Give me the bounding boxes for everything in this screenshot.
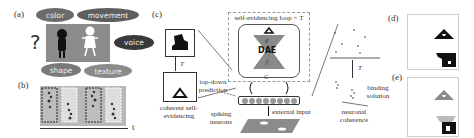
spiking-neurons-label: spiking neurons (208, 110, 234, 126)
input-plane-icon (240, 117, 304, 135)
down-arrow-right (352, 60, 353, 78)
neuron (277, 98, 283, 104)
panel-d-label: (d) (388, 13, 399, 23)
panel-d-box (407, 14, 459, 70)
external-input-label: external input (272, 108, 311, 116)
scattered-points (330, 20, 380, 60)
loop-arrows-icon (238, 80, 300, 96)
neuron (284, 98, 290, 104)
T-label-right: T (358, 64, 362, 72)
neuron (263, 98, 269, 104)
panel-e-label: (e) (392, 72, 402, 82)
neuron (270, 98, 276, 104)
neuron (242, 98, 248, 104)
binding-solution-label: binding solution (364, 84, 392, 100)
decoder-f: f (266, 58, 268, 66)
external-input-arrow (268, 106, 269, 116)
neuron (291, 98, 297, 104)
bound-points (332, 78, 362, 102)
panel-e-box (407, 77, 459, 137)
neuronal-coherence-label: neuronal coherence (334, 108, 374, 124)
neuron (249, 98, 255, 104)
encoder-g: g (265, 36, 269, 44)
triangle-and-shape-output-icon (408, 15, 458, 69)
triangle-and-shape-gray-output-icon (408, 78, 458, 136)
neuron (256, 98, 262, 104)
spiking-neuron-layer (238, 96, 300, 105)
dae-label: DAE (258, 46, 276, 55)
loop-title: self-evidencing loop × T (228, 14, 310, 22)
